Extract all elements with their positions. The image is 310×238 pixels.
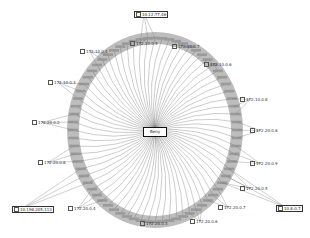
outer-node-n_top[interactable]: 10.12.77.46 (134, 11, 168, 18)
node-label: 172.10.0.3 (54, 80, 76, 85)
host-icon (278, 206, 283, 211)
host-icon (68, 206, 73, 211)
node-label: 10.198.205.113 (20, 207, 52, 212)
outer-node-n6[interactable]: 172.10.0.8 (240, 97, 268, 102)
node-label: 172.20.0.6 (256, 128, 278, 133)
edge (155, 113, 236, 130)
ring-node[interactable] (109, 49, 119, 52)
host-icon (32, 120, 37, 125)
outer-node-n7[interactable]: 172.20.0.2 (32, 120, 60, 125)
node-label: 172.10.0.7 (178, 44, 200, 49)
outer-node-n15[interactable]: 10.8.0.7 (276, 205, 303, 212)
edge (155, 130, 177, 219)
edge (133, 41, 155, 130)
node-label: 172.20.0.9 (256, 161, 278, 166)
ring-node[interactable] (115, 45, 125, 48)
node-label: 172.20.0.7 (224, 205, 246, 210)
ring-node[interactable] (178, 215, 188, 218)
host-icon (240, 186, 245, 191)
edge (151, 38, 162, 130)
node-label: 172.10.0.8 (246, 97, 268, 102)
host-icon (250, 128, 255, 133)
host-icon (172, 44, 177, 49)
host-icon (204, 62, 209, 67)
outer-node-n11[interactable]: 172.20.0.5 (240, 186, 268, 191)
edge (22, 183, 88, 209)
ring-node[interactable] (87, 70, 97, 73)
ring-node[interactable] (83, 76, 93, 79)
edge (148, 130, 159, 222)
outer-node-n13[interactable]: 172.20.0.4 (68, 206, 96, 211)
outer-node-n14[interactable]: 172.20.0.7 (218, 205, 246, 210)
host-icon (240, 97, 245, 102)
node-label: 172.20.0.5 (246, 186, 268, 191)
ring-node[interactable] (76, 90, 86, 93)
node-label: 172.10.0.4 (86, 49, 108, 54)
ring-node[interactable] (109, 208, 119, 211)
node-label: 172.20.0.6 (196, 219, 218, 224)
host-icon (218, 205, 223, 210)
host-icon (48, 80, 53, 85)
edge (155, 127, 237, 138)
ring-node[interactable] (68, 137, 78, 140)
edge (88, 130, 155, 183)
node-label: 10.12.77.46 (142, 12, 166, 17)
node-label: 172.20.0.4 (74, 206, 96, 211)
outer-node-n3[interactable]: 172.10.0.4 (80, 49, 108, 54)
node-label: 172.20.0.8 (44, 160, 66, 165)
outer-node-n16[interactable]: 172.20.0.3 (140, 221, 168, 226)
edge (127, 44, 155, 130)
outer-node-n10[interactable]: 172.20.0.9 (250, 161, 278, 166)
host-icon (38, 160, 43, 165)
edge (155, 119, 237, 130)
ring-node[interactable] (224, 90, 234, 93)
outer-node-n17[interactable]: 172.20.0.6 (190, 219, 218, 224)
edge (97, 130, 155, 195)
center-node-label: Beny (150, 129, 160, 134)
edge (144, 38, 155, 130)
center-node[interactable]: Beny (143, 127, 167, 137)
node-label: 172.20.0.3 (146, 221, 168, 226)
host-icon (140, 221, 145, 226)
ring-node[interactable] (221, 83, 231, 86)
edge (81, 91, 155, 130)
edge (22, 176, 84, 209)
ring-node[interactable] (115, 212, 125, 215)
edge (226, 176, 286, 208)
edge (22, 169, 81, 209)
edge (155, 77, 222, 130)
network-graph-canvas[interactable] (0, 0, 310, 238)
outer-node-n12[interactable]: 10.198.205.113 (12, 206, 54, 213)
ring-node[interactable] (129, 218, 139, 221)
outer-node-n8[interactable]: 172.20.0.6 (250, 128, 278, 133)
ring-node[interactable] (122, 215, 132, 218)
outer-node-n9[interactable]: 172.20.0.8 (38, 160, 66, 165)
host-icon (80, 49, 85, 54)
host-icon (250, 161, 255, 166)
edge (155, 99, 232, 130)
outer-node-n2[interactable]: 172.10.0.7 (172, 44, 200, 49)
outer-node-n4[interactable]: 172.10.0.6 (204, 62, 232, 67)
ring-node[interactable] (71, 105, 81, 108)
node-label: 10.8.0.7 (284, 206, 301, 211)
ring-node[interactable] (217, 76, 227, 79)
host-icon (136, 12, 141, 17)
node-label: 172.10.0.6 (210, 62, 232, 67)
ring-node[interactable] (103, 204, 113, 207)
edge (155, 91, 229, 130)
host-icon (14, 207, 19, 212)
host-icon (190, 219, 195, 224)
edge (155, 124, 237, 130)
ring-node[interactable] (197, 53, 207, 56)
outer-node-n5[interactable]: 172.10.0.3 (48, 80, 76, 85)
ring-node[interactable] (191, 49, 201, 52)
outer-node-n1[interactable]: 172.10.0.5 (130, 41, 158, 46)
node-label: 172.10.0.5 (136, 41, 158, 46)
host-icon (130, 41, 135, 46)
edge (155, 130, 183, 216)
node-label: 172.20.0.2 (38, 120, 60, 125)
edge (155, 130, 166, 222)
edge (155, 65, 213, 130)
